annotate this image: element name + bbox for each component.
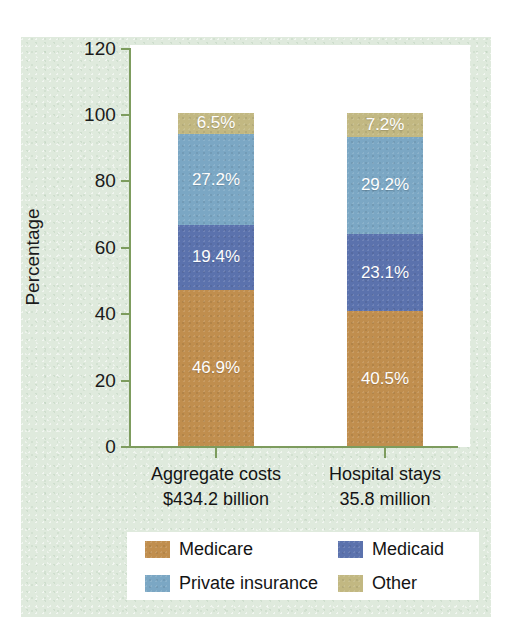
y-tick-label-40: 40 [62, 303, 116, 325]
y-tick-mark-100 [121, 114, 130, 116]
legend-item-medicare[interactable]: Medicare [145, 539, 338, 560]
bar-segment-other[interactable]: 6.5% [178, 113, 254, 135]
legend-swatch-medicaid [338, 541, 363, 558]
x-tick-mark-aggregate-costs [215, 448, 217, 458]
y-axis-title: Percentage [22, 177, 44, 337]
legend-item-other[interactable]: Other [338, 573, 497, 594]
legend-label-medicare: Medicare [179, 539, 253, 560]
x-tick-mark-hospital-stays [384, 448, 386, 458]
legend-swatch-private-insurance [145, 575, 170, 592]
legend-item-private-insurance[interactable]: Private insurance [145, 573, 338, 594]
y-tick-label-100: 100 [62, 104, 116, 126]
legend-label-other: Other [372, 573, 417, 594]
y-tick-mark-60 [121, 247, 130, 249]
y-tick-label-0: 0 [62, 436, 116, 458]
y-tick-mark-80 [121, 180, 130, 182]
legend-label-private-insurance: Private insurance [179, 573, 318, 594]
bar-segment-other[interactable]: 7.2% [347, 113, 423, 137]
legend: Medicare Medicaid Private insurance Othe… [127, 532, 479, 600]
y-tick-label-20: 20 [62, 370, 116, 392]
legend-swatch-other [338, 575, 363, 592]
category-sublabel: 35.8 million [285, 487, 485, 512]
bar-segment-private-insurance[interactable]: 29.2% [347, 137, 423, 234]
bar-segment-medicaid[interactable]: 23.1% [347, 234, 423, 311]
x-axis-line [122, 446, 458, 448]
bar-segment-medicare[interactable]: 46.9% [178, 290, 254, 446]
category-name: Hospital stays [285, 462, 485, 487]
figure-page: Percentage 120 100 80 60 40 20 0 6.5% 27… [0, 0, 512, 639]
y-tick-mark-0 [121, 446, 130, 448]
bars-layer: 6.5% 27.2% 19.4% 46.9% 7.2% 29.2% 23.1% … [130, 46, 470, 446]
y-tick-mark-120 [121, 48, 130, 50]
y-tick-mark-20 [121, 380, 130, 382]
bar-segment-medicaid[interactable]: 19.4% [178, 225, 254, 290]
x-category-label-hospital-stays: Hospital stays 35.8 million [285, 462, 485, 512]
y-tick-mark-40 [121, 313, 130, 315]
y-tick-label-120: 120 [62, 38, 116, 60]
legend-swatch-medicare [145, 541, 170, 558]
y-tick-label-80: 80 [62, 170, 116, 192]
legend-label-medicaid: Medicaid [372, 539, 444, 560]
bar-segment-private-insurance[interactable]: 27.2% [178, 134, 254, 225]
bar-segment-medicare[interactable]: 40.5% [347, 311, 423, 446]
bar-aggregate-costs[interactable]: 6.5% 27.2% 19.4% 46.9% [178, 46, 254, 446]
bar-hospital-stays[interactable]: 7.2% 29.2% 23.1% 40.5% [347, 46, 423, 446]
legend-item-medicaid[interactable]: Medicaid [338, 539, 497, 560]
y-tick-label-60: 60 [62, 237, 116, 259]
